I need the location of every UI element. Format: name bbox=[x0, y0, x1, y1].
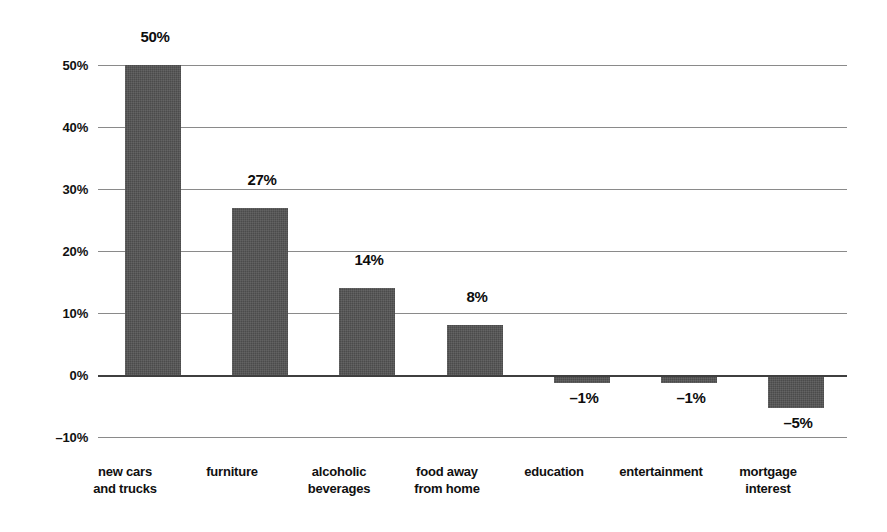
bar-education bbox=[554, 377, 610, 383]
x-axis-category-line: furniture bbox=[175, 463, 289, 480]
x-axis-category-label: mortgage interest bbox=[711, 463, 825, 497]
bar-new-cars-and-trucks bbox=[125, 65, 181, 375]
x-axis-category-label: entertainment bbox=[597, 463, 725, 480]
bar-value-label: 50% bbox=[97, 28, 213, 45]
x-axis-category-line: beverages bbox=[282, 480, 396, 497]
x-axis-category-label: alcoholic beverages bbox=[282, 463, 396, 497]
x-axis-category-line: mortgage bbox=[711, 463, 825, 480]
bar-value-label: 27% bbox=[204, 171, 320, 188]
x-axis-category-label: food away from home bbox=[390, 463, 504, 497]
x-axis-category-line: alcoholic bbox=[282, 463, 396, 480]
bar-value-label: –1% bbox=[526, 389, 642, 406]
y-axis-tick-label: 0% bbox=[18, 368, 88, 383]
gridline-10 bbox=[98, 313, 847, 314]
bar-value-label: –1% bbox=[633, 389, 749, 406]
bar-value-label: 8% bbox=[419, 288, 535, 305]
gridline-30 bbox=[98, 189, 847, 190]
x-axis-category-label: education bbox=[497, 463, 611, 480]
x-axis-category-label: furniture bbox=[175, 463, 289, 480]
x-axis-category-line: interest bbox=[711, 480, 825, 497]
x-axis-category-label: new cars and trucks bbox=[68, 463, 182, 497]
bar-mortgage-interest bbox=[768, 377, 824, 408]
x-axis-category-line: and trucks bbox=[68, 480, 182, 497]
bar-furniture bbox=[232, 208, 288, 375]
bar-entertainment bbox=[661, 377, 717, 383]
y-axis-tick-label: 50% bbox=[18, 58, 88, 73]
plot-area bbox=[98, 65, 847, 437]
x-axis-category-line: new cars bbox=[68, 463, 182, 480]
bar-alcoholic-beverages bbox=[339, 288, 395, 375]
gridline-40 bbox=[98, 127, 847, 128]
bar-food-away-from-home bbox=[447, 325, 503, 375]
bar-value-label: –5% bbox=[740, 414, 856, 431]
x-axis-category-line: food away bbox=[390, 463, 504, 480]
x-axis-category-line: entertainment bbox=[597, 463, 725, 480]
bar-value-label: 14% bbox=[311, 251, 427, 268]
gridline-20 bbox=[98, 251, 847, 252]
gridline-minus10 bbox=[98, 437, 847, 438]
gridline-50 bbox=[98, 65, 847, 66]
gridline-zero bbox=[98, 375, 847, 377]
x-axis-category-line: from home bbox=[390, 480, 504, 497]
y-axis-tick-label: 10% bbox=[18, 306, 88, 321]
y-axis-tick-label: 30% bbox=[18, 182, 88, 197]
x-axis-category-line: education bbox=[497, 463, 611, 480]
y-axis-tick-label: –10% bbox=[18, 430, 88, 445]
y-axis-tick-label: 40% bbox=[18, 120, 88, 135]
bar-chart: 50% 40% 30% 20% 10% 0% –10% 50% 27% 14% … bbox=[0, 0, 887, 532]
y-axis-tick-label: 20% bbox=[18, 244, 88, 259]
